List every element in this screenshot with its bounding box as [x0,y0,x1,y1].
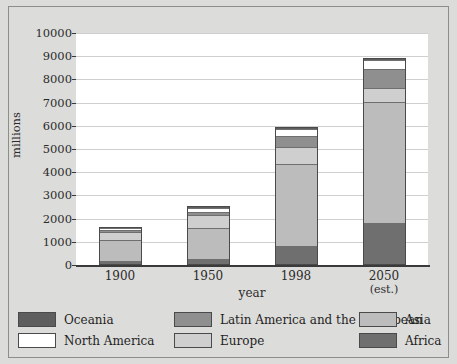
bar-1900[interactable] [99,227,142,265]
x-tick-year: 1900 [105,269,136,283]
y-tick-label: 4000 [2,165,72,179]
x-tick-year: 2050 [369,269,400,283]
legend-swatch [359,312,397,327]
bar-segment [276,246,317,264]
x-axis-title: year [76,286,428,300]
gridline [76,56,428,57]
legend: OceaniaLatin America and the CaribbeanAs… [18,311,442,353]
legend-item-oceania[interactable]: Oceania [18,311,114,328]
y-tick-label: 5000 [2,142,72,156]
y-tick-label: 3000 [2,188,72,202]
x-axis-line [76,265,430,267]
y-tick-label: 1000 [2,235,72,249]
x-tick-year: 1998 [281,269,312,283]
bar-1998[interactable] [275,127,318,265]
figure: millions 0100020003000400050006000700080… [0,0,457,364]
y-tick-label: 7000 [2,96,72,110]
legend-swatch [174,333,212,348]
bar-segment [100,261,141,264]
plot-area [76,33,428,265]
legend-item-north-america[interactable]: North America [18,332,154,349]
y-tick-label: 6000 [2,119,72,133]
y-tick-label: 2000 [2,212,72,226]
legend-item-asia[interactable]: Asia [359,311,431,328]
x-tick-label: 1950 [163,270,253,283]
x-tick-year: 1950 [193,269,224,283]
y-tick-label: 0 [2,258,72,272]
legend-swatch [359,333,397,348]
legend-swatch [18,312,56,327]
bar-2050[interactable] [363,58,406,265]
bar-segment [188,259,229,264]
legend-label: Oceania [64,313,114,327]
bar-segment [276,136,317,147]
bar-segment [188,215,229,227]
plot-wrapper: millions 0100020003000400050006000700080… [0,0,457,300]
legend-swatch [174,312,212,327]
legend-label: Asia [405,313,431,327]
bar-segment [364,88,405,102]
legend-item-africa[interactable]: Africa [359,332,441,349]
gridline [76,33,428,34]
bar-segment [100,240,141,261]
y-tick-label: 8000 [2,72,72,86]
y-axis-ticks: 0100020003000400050006000700080009000100… [0,0,72,300]
y-tick-label: 10000 [2,26,72,40]
bar-segment [364,223,405,264]
legend-label: Europe [220,334,264,348]
bar-segment [100,232,141,241]
bar-segment [188,228,229,259]
legend-swatch [18,333,56,348]
bar-1950[interactable] [187,206,230,265]
x-tick-label: 1998 [251,270,341,283]
y-tick-label: 9000 [2,49,72,63]
legend-label: North America [64,334,154,348]
bar-segment [364,69,405,88]
bar-segment [276,129,317,136]
bar-segment [364,60,405,69]
bar-segment [364,102,405,223]
legend-item-europe[interactable]: Europe [174,332,264,349]
x-tick-label: 1900 [75,270,165,283]
legend-label: Africa [405,334,441,348]
bar-segment [276,147,317,164]
bar-segment [276,164,317,246]
